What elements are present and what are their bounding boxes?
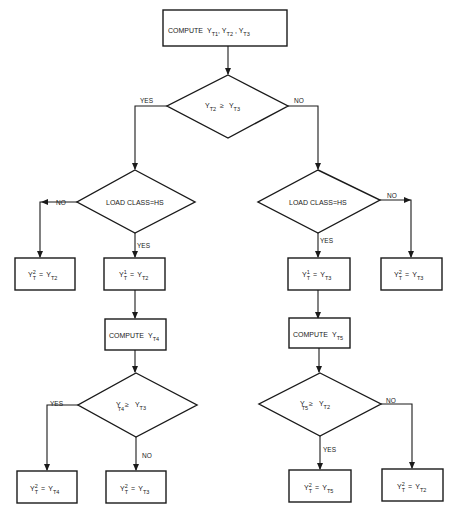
node-yt2-eq-yt3-far-right: Y2T=YT3: [381, 258, 442, 290]
node-compute-yt1-yt2-yt3: COMPUTEYT1, YT2 , YT3: [163, 10, 287, 46]
label-d3R-no: NO: [386, 397, 396, 404]
decision-load-class-hs-right: LOAD CLASS=HS: [258, 170, 380, 233]
decision-yt4-ge-yt3: YT4≥YT3: [78, 373, 197, 437]
label-d1-no: NO: [294, 97, 304, 104]
label-d3R-yes: YES: [323, 446, 337, 453]
svg-text:LOAD CLASS=HS: LOAD CLASS=HS: [289, 199, 347, 206]
edge-d3L-yes: [47, 405, 78, 470]
node-compute-yt4: COMPUTEYT4: [105, 319, 166, 350]
edge-d3R-no: [381, 404, 412, 468]
edge-d2L-no: [40, 202, 77, 257]
decision-yt5-ge-yt2: YT5≥YT2: [259, 373, 381, 436]
svg-text:LOAD CLASS=HS: LOAD CLASS=HS: [106, 199, 164, 206]
label-d2R-no: NO: [387, 192, 397, 199]
label-d2L-yes: YES: [137, 242, 151, 249]
node-compute-yt5: COMPUTEYT5: [289, 318, 350, 348]
node-yt2-eq-yt4: Y2T=YT4: [17, 471, 77, 503]
edge-d1-no: [288, 106, 318, 169]
label-d1-yes: YES: [140, 97, 154, 104]
edge-d2R-no: [380, 200, 411, 257]
decision-yt2-ge-yt3: YT2≥YT3: [167, 75, 288, 138]
node-yt2-eq-yt5: Y2T=YT5: [289, 470, 351, 502]
label-d2R-yes: YES: [320, 237, 334, 244]
label-d2L-no: NO: [56, 199, 66, 206]
node-yt2-eq-yt3-bottom: Y2T=YT3: [106, 471, 166, 503]
decision-load-class-hs-left: LOAD CLASS=HS: [77, 170, 195, 233]
node-yt2-eq-yt2-bottom: Y2T=YT2: [382, 469, 443, 501]
edge-d1-yes: [135, 106, 167, 169]
node-yt1-eq-yt3: Y1T=YT3: [288, 258, 350, 290]
flowchart: YES NO NO YES YES NO YES NO NO YES COMPU…: [0, 0, 456, 518]
node-yt2-eq-yt2-far-left: Y2T=YT2: [15, 258, 75, 290]
node-yt1-eq-yt2: Y1T=YT2: [104, 258, 165, 290]
label-d3L-no: NO: [142, 452, 152, 459]
label-d3L-yes: YES: [50, 400, 64, 407]
